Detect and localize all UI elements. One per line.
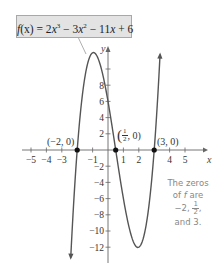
note-line: −2, 12, — [164, 201, 212, 216]
eq-part: − 11 — [87, 23, 110, 35]
y-tick-label: −8 — [94, 210, 104, 220]
x-tick-label: 4 — [167, 155, 172, 165]
x-axis-label: x — [206, 154, 212, 165]
eq-part: = 2 — [34, 23, 52, 35]
function-label: f(x) = 2x3 − 3x2 − 11x + 6 — [16, 15, 132, 38]
zero-label-half: (12, 0) — [117, 127, 141, 144]
zero-label-neg2: (−2, 0) — [47, 136, 74, 147]
y-axis-arrow-icon — [106, 46, 111, 52]
txt: −2, — [174, 203, 192, 213]
note-line: of f are — [164, 189, 212, 201]
curve-arrow-down-icon — [68, 254, 73, 260]
graph-canvas: xy −5−4−3−11245−12−10−8−6−4−22468 — [0, 0, 224, 276]
y-tick-label: −4 — [94, 178, 104, 188]
curve-arrows — [68, 53, 162, 260]
zero-dot — [152, 147, 157, 152]
paren: , 0) — [128, 130, 141, 141]
txt: , — [199, 203, 202, 213]
txt: of — [173, 190, 184, 200]
curve-arrow-up-icon — [157, 53, 162, 59]
y-tick-label: 2 — [99, 129, 104, 139]
x-axis-arrow-icon — [203, 148, 208, 153]
x-tick-label: −5 — [26, 155, 36, 165]
txt: are — [187, 190, 203, 200]
callout-pointer — [78, 37, 86, 54]
y-axis-label: y — [100, 43, 106, 54]
eq-part: + 6 — [115, 23, 133, 35]
x-tick-label: −3 — [57, 155, 67, 165]
x-tick-label: −4 — [41, 155, 51, 165]
y-tick-label: 8 — [99, 81, 104, 91]
zero-dot — [75, 147, 80, 152]
zeros-note: The zeros of f are −2, 12, and 3. — [164, 177, 212, 228]
zero-dot — [113, 147, 118, 152]
note-line: The zeros — [164, 177, 212, 189]
x-tick-label: 5 — [183, 155, 188, 165]
note-line: and 3. — [164, 216, 212, 228]
fn-arg: (x) — [20, 23, 33, 35]
y-tick-label: −10 — [89, 226, 104, 236]
y-tick-label: 4 — [99, 113, 104, 123]
y-tick-label: 6 — [99, 97, 104, 107]
x-tick-label: 2 — [136, 155, 141, 165]
function-curve — [71, 53, 160, 258]
axes: xy — [22, 43, 212, 263]
eq-part: − 3 — [60, 23, 78, 35]
y-tick-label: −2 — [94, 162, 104, 172]
y-tick-label: −12 — [89, 243, 104, 253]
x-tick-label: 1 — [121, 155, 126, 165]
y-tick-label: −6 — [94, 194, 104, 204]
zero-label-3: (3, 0) — [157, 136, 179, 147]
